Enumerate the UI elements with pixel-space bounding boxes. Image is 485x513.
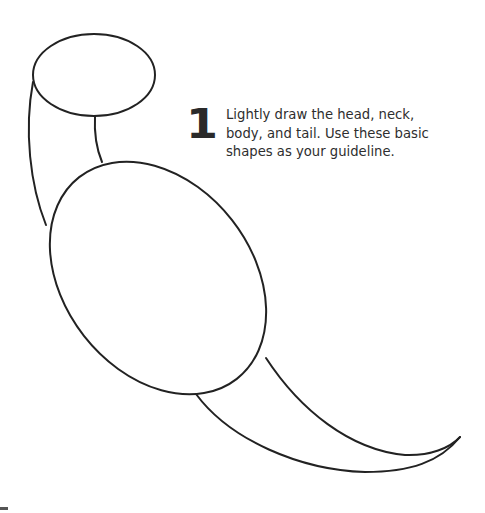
neck-front-line (95, 116, 102, 162)
head-shape (33, 34, 155, 116)
neck-back-line (29, 82, 46, 225)
step-number: 1 (186, 106, 216, 142)
tail-lower-line (196, 394, 460, 472)
corner-mark (0, 507, 8, 510)
guideline-drawing (0, 0, 485, 513)
step-instruction: Lightly draw the head, neck, body, and t… (226, 106, 436, 162)
instruction-step: 1 Lightly draw the head, neck, body, and… (188, 106, 436, 162)
body-shape (5, 119, 311, 436)
tail-upper-line (266, 358, 460, 455)
